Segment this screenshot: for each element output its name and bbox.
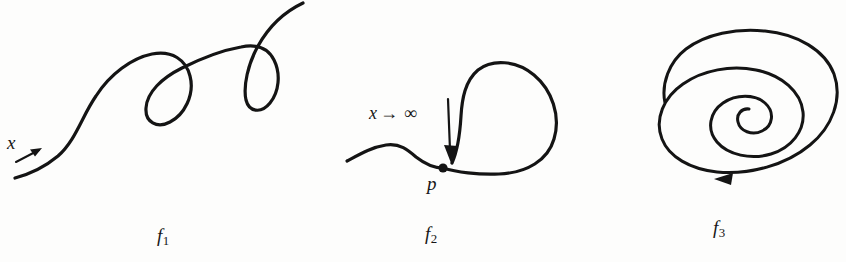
limit-label-f2: x→∞ bbox=[369, 104, 420, 122]
panel-caption-f3: f3 bbox=[713, 218, 725, 240]
curve-f2-loop bbox=[443, 63, 556, 175]
limit-variable: x bbox=[369, 103, 377, 123]
caption-sub-f1: 1 bbox=[162, 233, 169, 248]
curve-f1 bbox=[15, 3, 303, 178]
limit-arrow-f2-shaft bbox=[448, 99, 450, 150]
panel-caption-f1: f1 bbox=[157, 226, 169, 248]
arrow-glyph: → bbox=[377, 103, 401, 123]
infinity-glyph: ∞ bbox=[401, 103, 420, 123]
direction-arrow-f3-head bbox=[714, 173, 733, 185]
curve-f2-tail bbox=[347, 145, 443, 168]
panel-caption-f2: f2 bbox=[425, 224, 437, 246]
panel-f3-drawing bbox=[659, 30, 837, 185]
direction-arrow-f1-head bbox=[30, 148, 42, 157]
caption-sub-f2: 2 bbox=[430, 231, 437, 246]
caption-sub-f3: 3 bbox=[718, 225, 725, 240]
curve-f3-spiral bbox=[659, 30, 837, 172]
point-label-p: p bbox=[427, 174, 437, 193]
figure-sheet: .ink { fill: none; stroke: #141414; stro… bbox=[0, 0, 846, 262]
panel-f1-drawing bbox=[15, 3, 303, 178]
flow-direction-label-f1: x bbox=[7, 133, 15, 152]
point-p-marker bbox=[438, 163, 447, 172]
